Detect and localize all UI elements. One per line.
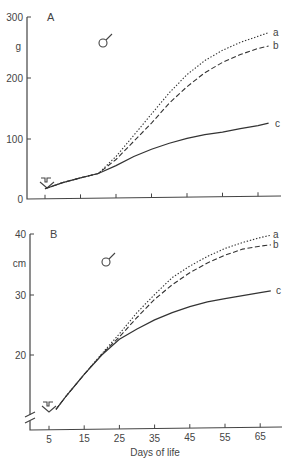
series-line-b: [56, 245, 271, 410]
panel-b-axes: [30, 234, 282, 430]
y-axis-unit: cm: [13, 258, 26, 269]
series-label-c: c: [276, 285, 281, 296]
male-symbol-icon: [99, 34, 112, 47]
x-tick-label: 35: [149, 433, 161, 444]
panel-label: A: [47, 11, 55, 23]
panel-a-axes: [27, 17, 281, 199]
y-tick-label: 300: [6, 12, 23, 23]
y-tick-label: 40: [15, 229, 27, 240]
series-label-b: b: [273, 239, 279, 250]
growth-chart: 300 g 200 100 0 A a b c 5152535455565 40…: [0, 0, 294, 464]
x-tick-label: 45: [184, 432, 196, 443]
panel-b-length-chart: 5152535455565 40 cm 30 20 B a b c Days o…: [13, 228, 282, 458]
series-line-c: [45, 123, 269, 189]
series-label-a: a: [273, 27, 279, 38]
series-line-c: [56, 291, 271, 410]
series-label-c: c: [275, 118, 280, 129]
series-line-a: [56, 235, 271, 409]
male-symbol-icon: [102, 253, 115, 266]
y-tick-label: 200: [6, 73, 23, 84]
x-tick-label: 55: [219, 432, 231, 443]
x-tick-label: 65: [255, 431, 267, 442]
arrow-marker-icon: [42, 402, 56, 412]
panel-a-weight-chart: 300 g 200 100 0 A a b c: [6, 11, 281, 205]
series-line-a: [45, 33, 269, 189]
series-label-b: b: [273, 40, 279, 51]
x-tick-label: 25: [114, 433, 126, 444]
x-axis-title: Days of life: [130, 447, 180, 458]
y-tick-label: 0: [17, 194, 23, 205]
y-axis-unit: g: [15, 41, 21, 52]
y-tick-label: 100: [6, 134, 23, 145]
y-tick-label: 20: [15, 350, 27, 361]
x-tick-label: 15: [79, 433, 91, 444]
panel-label: B: [50, 228, 57, 240]
y-tick-label: 30: [15, 290, 27, 301]
x-tick-label: 5: [46, 434, 52, 445]
series-line-b: [45, 46, 269, 189]
